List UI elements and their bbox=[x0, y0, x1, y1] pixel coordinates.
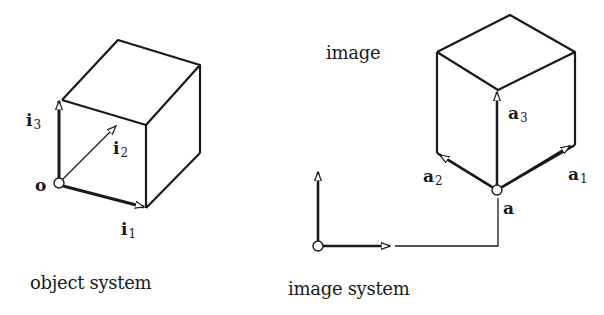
a3-label: a3 bbox=[508, 105, 528, 124]
origin-o-point bbox=[54, 178, 64, 188]
origin-o-label: o bbox=[35, 177, 46, 194]
a2-vector-arrow bbox=[440, 155, 492, 187]
a2-label: a2 bbox=[423, 168, 443, 187]
image-system-frame bbox=[313, 172, 498, 251]
image-system-caption: image system bbox=[288, 280, 409, 298]
image-label: image bbox=[326, 44, 380, 62]
i2-label: i2 bbox=[113, 140, 128, 159]
a1-vector-arrow bbox=[502, 146, 570, 187]
object-cube bbox=[62, 40, 200, 208]
translation-connector-line bbox=[395, 198, 498, 246]
origin-a-label: a bbox=[503, 200, 514, 217]
i2-vector-arrow bbox=[62, 126, 116, 180]
i3-label: i3 bbox=[26, 112, 41, 131]
object-system-caption: object system bbox=[30, 274, 151, 292]
origin-a-point bbox=[492, 185, 502, 195]
diagram-canvas bbox=[0, 0, 604, 315]
object-axes bbox=[54, 101, 144, 207]
i1-vector-arrow bbox=[63, 186, 144, 207]
image-cube bbox=[437, 15, 575, 190]
image-axes bbox=[440, 92, 570, 195]
image-system-origin-point bbox=[313, 241, 323, 251]
i1-label: i1 bbox=[121, 221, 136, 240]
a1-label: a1 bbox=[568, 166, 588, 185]
